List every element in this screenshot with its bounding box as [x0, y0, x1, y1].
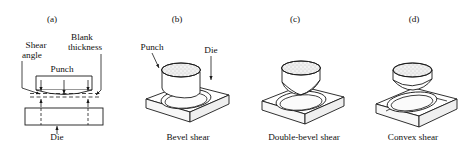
die-body-a: [25, 108, 103, 125]
caption-c: Double-bevel shear: [268, 132, 340, 142]
punch-label-a: Punch: [51, 64, 74, 74]
blank-thickness-label-line2: thickness: [68, 42, 103, 52]
blank-thickness-label-line1: Blank: [71, 32, 93, 42]
panel-letter-b: (b): [172, 14, 183, 24]
panel-letter-d: (d): [409, 14, 420, 24]
caption-d: Convex shear: [388, 132, 438, 142]
shear-punch-figure: (a) (b) (c) (d) Shear angle Blank thickn…: [0, 0, 461, 158]
die-label-b: Die: [204, 45, 217, 55]
shear-angle-label-line1: Shear: [26, 40, 47, 50]
punch-label-b: Punch: [141, 42, 164, 52]
panel-letter-a: (a): [47, 14, 57, 24]
shear-angle-label-line2: angle: [22, 50, 42, 60]
caption-b: Bevel shear: [166, 132, 209, 142]
panel-letter-c: (c): [290, 14, 300, 24]
